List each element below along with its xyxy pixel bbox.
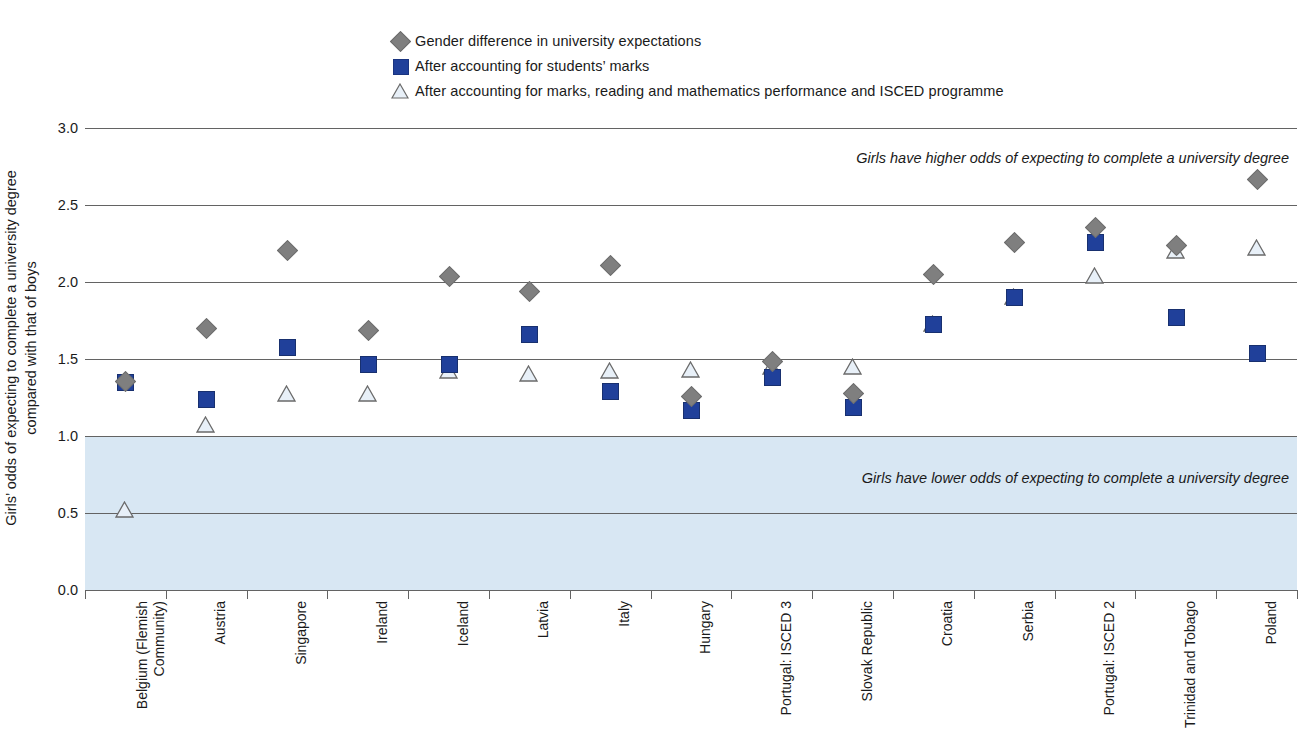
x-axis-category-labels: Belgium (Flemish Community)AustriaSingap… xyxy=(85,601,1297,741)
x-axis-tick xyxy=(731,590,732,599)
x-axis-category-label: Croatia xyxy=(939,601,957,742)
x-axis-category-label: Singapore xyxy=(293,601,311,742)
y-tick-label: 1.0 xyxy=(18,428,78,444)
triangle-data-point xyxy=(358,385,377,402)
diamond-data-point xyxy=(519,281,540,302)
scatter-chart: Girls’ odds of expecting to complete a u… xyxy=(0,0,1312,742)
square-data-point xyxy=(279,339,296,356)
x-axis-tick xyxy=(974,590,975,599)
x-axis-tick xyxy=(408,590,409,599)
gridline xyxy=(85,436,1297,437)
x-axis-tick xyxy=(327,590,328,599)
annotation-higher-odds: Girls have higher odds of expecting to c… xyxy=(856,150,1289,166)
x-axis-tick xyxy=(1216,590,1217,599)
triangle-data-point xyxy=(519,365,538,382)
x-axis-category-label: Iceland xyxy=(455,601,473,742)
x-axis-ticks xyxy=(85,590,1297,600)
x-axis-category-label: Slovak Republic xyxy=(859,601,877,742)
y-tick-label: 1.5 xyxy=(18,351,78,367)
diamond-data-point xyxy=(358,320,379,341)
square-data-point xyxy=(360,356,377,373)
x-axis-category-label: Trinidad and Tobago xyxy=(1182,601,1200,742)
y-tick-label: 2.0 xyxy=(18,274,78,290)
diamond-data-point xyxy=(196,318,217,339)
triangle-data-point xyxy=(196,416,215,433)
square-data-point xyxy=(602,383,619,400)
x-axis-tick xyxy=(812,590,813,599)
triangle-data-point xyxy=(681,361,700,378)
x-axis-tick xyxy=(489,590,490,599)
triangle-data-point xyxy=(115,501,134,518)
triangle-data-point xyxy=(843,358,862,375)
x-axis-tick xyxy=(1297,590,1298,599)
square-data-point xyxy=(1006,289,1023,306)
y-tick-label: 2.5 xyxy=(18,197,78,213)
x-axis-category-label: Austria xyxy=(212,601,230,742)
triangle-data-point xyxy=(600,362,619,379)
diamond-data-point xyxy=(277,240,298,261)
square-data-point xyxy=(521,326,538,343)
x-axis-category-label: Serbia xyxy=(1020,601,1038,742)
triangle-data-point xyxy=(1085,267,1104,284)
gridline xyxy=(85,282,1297,283)
y-axis-tick-labels: 3.0 2.5 2.0 1.5 1.0 0.5 0.0 xyxy=(0,128,78,590)
square-data-point xyxy=(925,316,942,333)
x-axis-tick xyxy=(651,590,652,599)
x-axis-tick xyxy=(166,590,167,599)
x-axis-tick xyxy=(893,590,894,599)
gridline xyxy=(85,513,1297,514)
annotation-lower-odds: Girls have lower odds of expecting to co… xyxy=(862,470,1289,486)
diamond-data-point xyxy=(600,255,621,276)
diamond-data-point xyxy=(438,266,459,287)
y-tick-label: 0.0 xyxy=(18,582,78,598)
x-axis-category-label: Portugal: ISCED 2 xyxy=(1101,601,1119,742)
square-data-point xyxy=(1168,309,1185,326)
triangle-data-point xyxy=(277,385,296,402)
x-axis-category-label: Latvia xyxy=(535,601,553,742)
gridline xyxy=(85,128,1297,129)
square-data-point xyxy=(198,391,215,408)
x-axis-tick xyxy=(247,590,248,599)
x-axis-category-label: Belgium (Flemish Community) xyxy=(134,601,170,742)
square-data-point xyxy=(1249,345,1266,362)
x-axis-category-label: Hungary xyxy=(697,601,715,742)
plot-area: Girls have higher odds of expecting to c… xyxy=(85,128,1297,590)
triangle-data-point xyxy=(1247,239,1266,256)
square-data-point xyxy=(441,356,458,373)
x-axis-category-label: Ireland xyxy=(374,601,392,742)
x-axis-tick xyxy=(85,590,86,599)
x-axis-category-label: Poland xyxy=(1263,601,1281,742)
diamond-data-point xyxy=(1004,232,1025,253)
x-axis-category-label: Italy xyxy=(616,601,634,742)
y-tick-label: 0.5 xyxy=(18,505,78,521)
gridline xyxy=(85,205,1297,206)
x-axis-tick xyxy=(1055,590,1056,599)
x-axis-category-label: Portugal: ISCED 3 xyxy=(778,601,796,742)
x-axis-tick xyxy=(1135,590,1136,599)
y-tick-label: 3.0 xyxy=(18,120,78,136)
diamond-data-point xyxy=(1246,169,1267,190)
x-axis-tick xyxy=(570,590,571,599)
